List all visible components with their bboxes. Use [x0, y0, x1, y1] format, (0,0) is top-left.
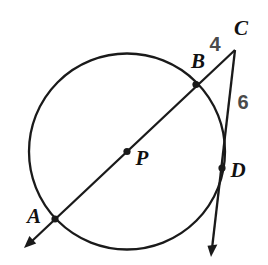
circle-geometry-diagram: A B C D P 4 6 [0, 0, 268, 265]
point-label-d: D [230, 160, 245, 181]
arrowhead-tangent-icon [208, 245, 218, 258]
point-label-a: A [27, 206, 41, 227]
point-a-dot [51, 215, 58, 222]
point-label-p: P [136, 148, 149, 169]
segment-bc-length-label: 4 [209, 34, 220, 54]
point-d-dot [218, 164, 225, 171]
point-b-dot [192, 81, 199, 88]
point-label-b: B [191, 51, 205, 72]
point-p-dot [123, 148, 130, 155]
segment-cd-length-label: 6 [237, 92, 248, 112]
tangent-line-c-d [212, 50, 235, 246]
point-label-c: C [234, 18, 248, 39]
